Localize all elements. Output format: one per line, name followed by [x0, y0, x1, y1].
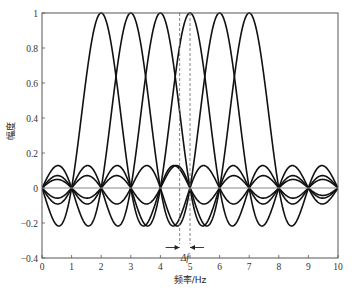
y-tick-label: 1 — [33, 9, 38, 19]
y-tick-label: 0.8 — [26, 44, 38, 54]
y-axis-label: 幅度 — [5, 122, 16, 140]
x-tick-label: 6 — [217, 262, 222, 272]
x-tick-label: 5 — [188, 262, 193, 272]
x-tick-label: 4 — [158, 262, 163, 272]
y-tick-label: 0.4 — [26, 114, 38, 124]
y-tick-label: −0.2 — [21, 219, 38, 229]
ofdm-sinc-chart: 012345678910 −0.4−0.200.20.40.60.81 频率/H… — [0, 0, 353, 289]
x-axis-label: 频率/Hz — [174, 274, 207, 285]
x-tick-label: 8 — [276, 262, 281, 272]
x-tick-label: 3 — [128, 262, 133, 272]
y-tick-label: −0.4 — [21, 254, 38, 264]
x-tick-label: 7 — [247, 262, 252, 272]
y-tick-label: 0.6 — [26, 79, 38, 89]
x-tick-label: 9 — [306, 262, 311, 272]
y-tick-label: 0 — [33, 184, 38, 194]
y-axis-ticks: −0.4−0.200.20.40.60.81 — [21, 9, 45, 264]
x-tick-label: 0 — [40, 262, 45, 272]
delta-f-label: Δf — [180, 253, 191, 263]
x-tick-label: 2 — [99, 262, 104, 272]
y-tick-label: 0.2 — [26, 149, 38, 159]
x-tick-label: 1 — [69, 262, 74, 272]
x-tick-label: 10 — [333, 262, 343, 272]
